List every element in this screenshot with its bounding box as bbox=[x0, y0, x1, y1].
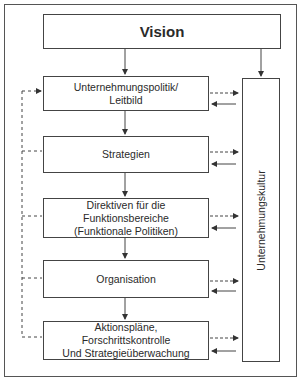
connector-lines bbox=[0, 0, 302, 383]
to-culture-arrows bbox=[210, 93, 238, 338]
from-culture-arrows bbox=[212, 104, 236, 351]
feedback-loop bbox=[22, 91, 42, 337]
